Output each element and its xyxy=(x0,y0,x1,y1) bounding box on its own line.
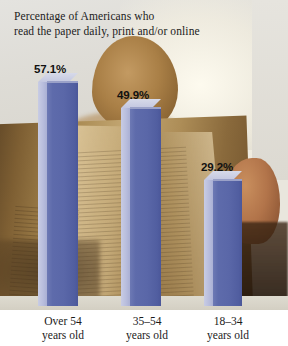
bar-top-edge xyxy=(47,81,78,83)
chart-title-line-2: read the paper daily, print and/or onlin… xyxy=(14,24,264,39)
bar-top-edge xyxy=(213,179,242,181)
category-label-line-1: Over 54 xyxy=(15,314,111,328)
bar-front-face xyxy=(213,180,242,306)
bar-side-face xyxy=(204,180,213,306)
bar-35-54 xyxy=(130,108,161,306)
bar-front-face xyxy=(47,82,78,306)
value-label-35-54: 49.9% xyxy=(117,89,149,101)
bar-front-face xyxy=(130,108,161,306)
bar-18-34 xyxy=(213,180,242,306)
bar-side-face xyxy=(121,108,130,306)
chart-title-line-1: Percentage of Americans who xyxy=(14,9,264,24)
value-label-18-34: 29.2% xyxy=(201,161,233,173)
category-label-line-2: years old xyxy=(15,328,111,342)
bar-top-edge xyxy=(130,107,161,109)
value-label-over-54: 57.1% xyxy=(34,63,66,75)
category-label-line-1: 18–34 xyxy=(180,314,276,328)
category-label-18-34: 18–34 years old xyxy=(180,314,276,342)
chart-title: Percentage of Americans who read the pap… xyxy=(14,9,264,38)
bar-side-face xyxy=(38,82,47,306)
category-label-line-2: years old xyxy=(180,328,276,342)
chart-figure: Percentage of Americans who read the pap… xyxy=(0,0,288,346)
bar-over-54 xyxy=(47,82,78,306)
category-label-over-54: Over 54 years old xyxy=(15,314,111,342)
